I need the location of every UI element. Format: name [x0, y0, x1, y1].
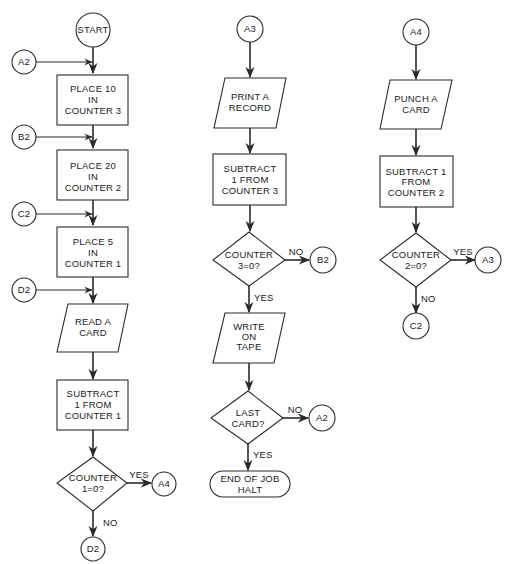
yes-label: YES [253, 449, 273, 460]
connector-a4-in: A4 [403, 19, 429, 45]
decision-label: 3=0? [238, 260, 260, 271]
process-subtract-counter-2: SUBTRACT 1 FROM COUNTER 2 [380, 156, 453, 207]
process-label: COUNTER 2 [65, 182, 122, 193]
io-label: RECORD [229, 102, 271, 113]
process-subtract-counter-3: SUBTRACT 1 FROM COUNTER 3 [213, 154, 286, 205]
no-label: NO [103, 517, 118, 528]
connector-b2-out: B2 [310, 247, 336, 273]
no-label: NO [421, 293, 436, 304]
yes-label: YES [453, 246, 473, 257]
column-3: A4 PUNCH A CARD SUBTRACT 1 FROM COUNTER … [380, 19, 501, 339]
start-node: START [76, 13, 110, 47]
terminal-label: HALT [238, 484, 262, 495]
io-write-tape: WRITE ON TAPE [213, 313, 285, 363]
io-label: READ A [75, 316, 112, 327]
connector-label: A4 [410, 26, 422, 37]
flowchart-canvas: START A2 PLACE 10 IN COUNTER 3 B2 PLACE … [0, 0, 514, 564]
decision-counter-1-zero: COUNTER 1=0? [57, 457, 127, 511]
decision-last-card: LAST CARD? [211, 391, 283, 444]
decision-label: COUNTER [225, 249, 273, 260]
connector-d2-in: D2 [12, 278, 36, 302]
process-subtract-counter-1: SUBTRACT 1 FROM COUNTER 1 [57, 380, 128, 430]
process-label: COUNTER 3 [222, 185, 279, 196]
process-label: COUNTER 1 [65, 258, 122, 269]
decision-label: LAST [236, 407, 261, 418]
decision-counter-2-zero: COUNTER 2=0? [380, 233, 451, 287]
decision-label: COUNTER [392, 249, 440, 260]
connector-a2-in: A2 [12, 50, 36, 74]
process-place-10: PLACE 10 IN COUNTER 3 [57, 75, 128, 125]
no-label: NO [289, 246, 304, 257]
process-label: COUNTER 3 [65, 105, 122, 116]
connector-label: C2 [18, 208, 31, 219]
connector-label: A2 [18, 56, 30, 67]
no-label: NO [288, 404, 303, 415]
io-label: PUNCH A [394, 93, 438, 104]
process-label: COUNTER 2 [388, 187, 445, 198]
connector-a3-out: A3 [475, 247, 501, 273]
connector-label: A3 [244, 23, 256, 34]
connector-c2-out: C2 [403, 313, 429, 339]
process-label: PLACE 10 [70, 83, 116, 94]
process-label: SUBTRACT [224, 163, 277, 174]
process-label: FROM [402, 176, 431, 187]
column-2: A3 PRINT A RECORD SUBTRACT 1 FROM COUNTE… [210, 16, 336, 497]
connector-label: C2 [410, 320, 423, 331]
decision-counter-3-zero: COUNTER 3=0? [213, 232, 285, 286]
io-label: PRINT A [231, 91, 270, 102]
process-label: PLACE 20 [70, 160, 116, 171]
connector-d2-out: D2 [81, 537, 105, 561]
connector-c2-in: C2 [12, 202, 36, 226]
connector-label: D2 [87, 543, 100, 554]
yes-label: YES [254, 292, 274, 303]
yes-label: YES [129, 469, 149, 480]
connector-label: B2 [18, 131, 30, 142]
terminal-end-of-job: END OF JOB HALT [210, 471, 290, 497]
connector-a3-in: A3 [237, 16, 263, 42]
process-label: PLACE 5 [73, 236, 113, 247]
process-label: SUBTRACT [67, 388, 120, 399]
process-place-20: PLACE 20 IN COUNTER 2 [57, 150, 128, 200]
terminal-label: END OF JOB [220, 473, 279, 484]
process-label: COUNTER 1 [65, 410, 122, 421]
connector-label: B2 [317, 254, 329, 265]
column-1: START A2 PLACE 10 IN COUNTER 3 B2 PLACE … [12, 13, 176, 561]
process-label: 1 FROM [74, 399, 111, 410]
start-label: START [77, 24, 108, 35]
connector-a4-out: A4 [152, 472, 176, 496]
process-label: IN [88, 171, 98, 182]
process-label: IN [88, 247, 98, 258]
io-read-card: READ A CARD [57, 304, 128, 352]
connector-a2-out: A2 [309, 405, 335, 431]
process-label: 1 FROM [231, 174, 268, 185]
io-label: TAPE [237, 341, 262, 352]
connector-label: A2 [316, 412, 328, 423]
io-punch-card: PUNCH A CARD [380, 80, 452, 129]
io-label: CARD [79, 327, 107, 338]
decision-label: 1=0? [82, 483, 104, 494]
connector-label: A3 [482, 254, 494, 265]
io-label: CARD [402, 104, 430, 115]
decision-label: CARD? [231, 418, 264, 429]
connector-b2-in: B2 [12, 125, 36, 149]
process-label: IN [88, 94, 98, 105]
decision-label: COUNTER [69, 472, 117, 483]
connector-label: A4 [158, 478, 170, 489]
connector-label: D2 [18, 284, 31, 295]
process-place-5: PLACE 5 IN COUNTER 1 [57, 227, 128, 277]
io-print-record: PRINT A RECORD [214, 78, 286, 128]
decision-label: 2=0? [405, 260, 427, 271]
